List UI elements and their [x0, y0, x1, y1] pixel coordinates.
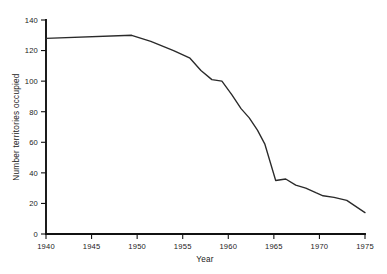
x-axis-title: Year [196, 255, 214, 264]
x-tick-label: 1970 [311, 242, 329, 251]
y-tick-label: 100 [25, 77, 38, 86]
y-tick-label: 80 [29, 108, 38, 117]
y-tick-label: 40 [29, 169, 38, 178]
line-chart: 020406080100120140 194019451950195519601… [0, 0, 387, 274]
chart-background [0, 0, 387, 274]
y-tick-label: 0 [34, 230, 38, 239]
x-tick-label: 1945 [83, 242, 101, 251]
x-tick-label: 1960 [219, 242, 237, 251]
x-tick-label: 1940 [37, 242, 55, 251]
y-axis-title: Number territories occupied [12, 73, 21, 181]
chart-figure: 020406080100120140 194019451950195519601… [0, 0, 387, 274]
x-tick-label: 1950 [128, 242, 146, 251]
x-tick-label: 1965 [265, 242, 283, 251]
y-tick-label: 20 [29, 199, 38, 208]
y-tick-label: 140 [25, 16, 38, 25]
y-tick-label: 60 [29, 138, 38, 147]
y-tick-label: 120 [25, 46, 38, 55]
x-tick-label: 1975 [356, 242, 374, 251]
x-tick-label: 1955 [174, 242, 192, 251]
